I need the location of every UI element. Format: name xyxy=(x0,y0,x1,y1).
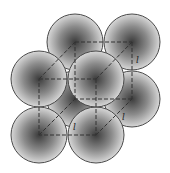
edge-length-label: l xyxy=(73,122,76,132)
edge-length-label: l xyxy=(122,112,125,122)
edge-length-label: l xyxy=(136,55,139,65)
cubic-lattice-diagram: lll xyxy=(0,0,170,173)
lattice-spheres xyxy=(11,14,160,163)
